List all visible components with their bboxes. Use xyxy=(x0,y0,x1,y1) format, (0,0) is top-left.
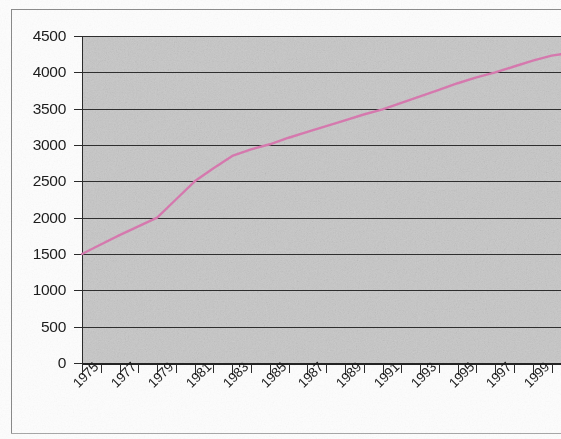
page-frame-bottom-rule xyxy=(11,433,561,434)
y-axis-label: 1000 xyxy=(0,281,66,299)
scanned-chart-page: 450040003500300025002000150010005000 197… xyxy=(0,0,561,439)
x-axis-tick xyxy=(251,364,252,373)
x-axis-tick xyxy=(326,364,327,373)
y-axis-label: 0 xyxy=(0,354,66,372)
y-axis-label: 1500 xyxy=(0,245,66,263)
x-axis-tick xyxy=(439,364,440,373)
page-frame-top-rule xyxy=(11,9,561,10)
y-axis-label: 4000 xyxy=(0,63,66,81)
x-axis-tick xyxy=(176,364,177,373)
y-axis-label: 3000 xyxy=(0,136,66,154)
x-axis-tick xyxy=(514,364,515,373)
line-chart: 450040003500300025002000150010005000 197… xyxy=(0,0,561,439)
y-axis-label: 2000 xyxy=(0,209,66,227)
y-axis-label: 4500 xyxy=(0,27,66,45)
data-series-line xyxy=(82,36,561,363)
series-polyline xyxy=(82,54,561,254)
x-axis-tick xyxy=(101,364,102,373)
y-axis-label: 2500 xyxy=(0,172,66,190)
y-axis-label: 3500 xyxy=(0,100,66,118)
y-axis-label: 500 xyxy=(0,318,66,336)
x-axis-tick xyxy=(364,364,365,373)
